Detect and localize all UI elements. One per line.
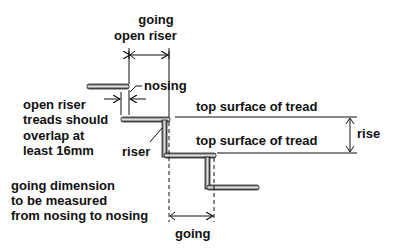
- riser-1: [162, 120, 167, 157]
- open-riser-note-4: least 16mm: [23, 143, 94, 158]
- going-note-1: going dimension: [11, 178, 115, 193]
- going-open-riser-label: going: [138, 12, 174, 27]
- top-surface-label-2: top surface of tread: [196, 133, 317, 148]
- open-riser-note-2: treads should: [23, 112, 108, 127]
- stair-diagram: going open riser nosing open riser tread…: [0, 0, 397, 252]
- rise-label: rise: [357, 126, 380, 141]
- nosing-label: nosing: [144, 78, 187, 93]
- riser-label: riser: [122, 144, 150, 159]
- going-open-riser-label-2: open riser: [114, 28, 177, 43]
- going-label: going: [175, 226, 210, 241]
- going-note-2: to be measured: [11, 193, 107, 208]
- open-riser-note-3: overlap at: [23, 128, 84, 143]
- open-riser-tread: [87, 84, 129, 89]
- top-surface-label-1: top surface of tread: [196, 99, 317, 114]
- going-note-3: from nosing to nosing: [11, 208, 148, 223]
- tread-3: [207, 185, 259, 190]
- riser-2: [205, 157, 210, 189]
- open-riser-note-1: open riser: [23, 97, 86, 112]
